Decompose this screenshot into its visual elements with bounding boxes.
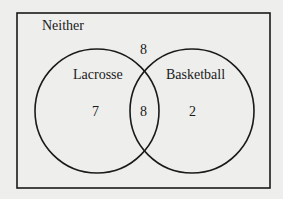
neither-label: Neither bbox=[42, 19, 84, 33]
lacrosse-label: Lacrosse bbox=[73, 68, 123, 82]
basketball-only-count: 2 bbox=[189, 105, 196, 119]
basketball-label: Basketball bbox=[166, 68, 225, 82]
intersection-count: 8 bbox=[140, 105, 147, 119]
neither-count: 8 bbox=[140, 43, 147, 57]
universe-rectangle bbox=[17, 13, 270, 188]
lacrosse-only-count: 7 bbox=[92, 105, 99, 119]
venn-diagram: Neither 8 Lacrosse Basketball 7 8 2 bbox=[0, 0, 283, 199]
